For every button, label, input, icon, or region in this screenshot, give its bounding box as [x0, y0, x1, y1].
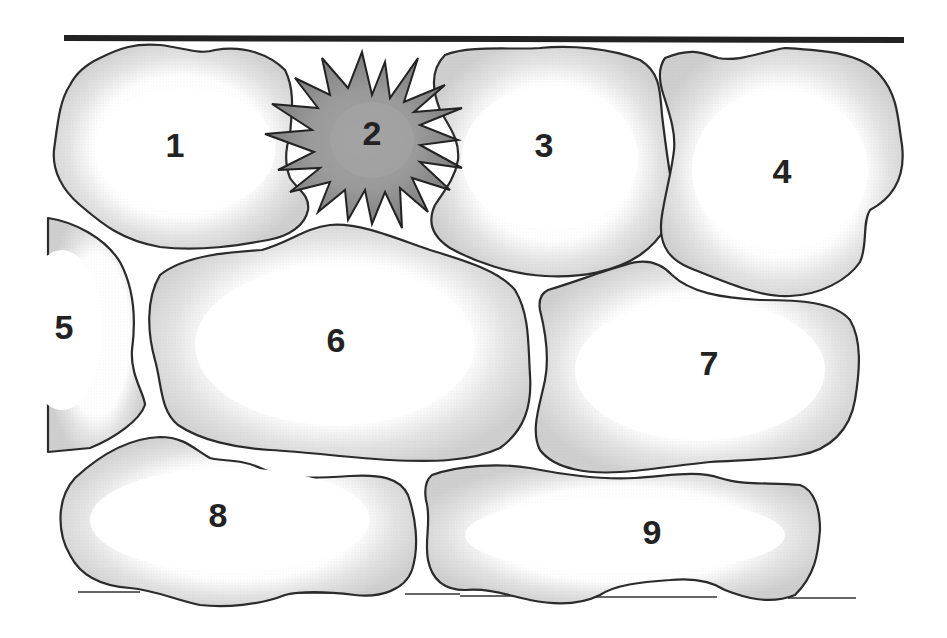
cell-5-label: 5: [55, 308, 74, 346]
cell-9-label: 9: [643, 513, 662, 551]
cell-3-label: 3: [535, 126, 554, 164]
cell-2-label: 2: [363, 114, 382, 152]
cell-6-label: 6: [327, 321, 346, 359]
cell-4-label: 4: [773, 152, 792, 190]
cell-8-label: 8: [209, 496, 228, 534]
cell-8: 8: [60, 437, 416, 606]
cell-diagram: 1 3 2 4 5 6 7: [0, 0, 947, 638]
cell-4: 4: [660, 48, 903, 296]
cell-1: 1: [54, 45, 308, 249]
cell-5-partial: 5: [22, 218, 145, 452]
cell-3: 3: [431, 47, 673, 276]
cell-1-label: 1: [166, 126, 185, 164]
top-boundary-line: [64, 38, 904, 40]
cell-9: 9: [425, 465, 820, 603]
cell-7-label: 7: [700, 344, 719, 382]
